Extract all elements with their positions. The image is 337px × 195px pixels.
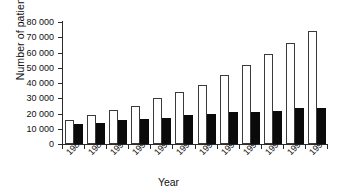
y-tick-label: 80 000 — [0, 18, 54, 27]
x-tick-mark — [195, 145, 196, 149]
bar-group — [198, 22, 216, 144]
x-tick-mark — [106, 145, 107, 149]
x-tick-mark — [84, 145, 85, 149]
bar-white — [109, 110, 118, 144]
x-axis-title: Year — [0, 176, 337, 188]
x-tick-mark — [305, 145, 306, 149]
bar-white — [175, 92, 184, 144]
bar-chart-figure: Number of patients 80 00070 00060 00050 … — [0, 0, 337, 195]
y-tick-label: 60 000 — [0, 49, 54, 58]
bar-group — [87, 22, 105, 144]
bar-white — [242, 65, 251, 144]
y-tick-label: 30 000 — [0, 94, 54, 103]
bar-white — [308, 31, 317, 144]
bar-white — [220, 75, 229, 144]
x-tick-mark — [239, 145, 240, 149]
y-tick-label: 50 000 — [0, 64, 54, 73]
y-tick-label: 0 — [0, 140, 54, 149]
bar-white — [286, 43, 295, 144]
x-tick-mark — [128, 145, 129, 149]
bar-group — [286, 22, 304, 144]
x-tick-mark — [261, 145, 262, 149]
bar-group — [109, 22, 127, 144]
bar-group — [131, 22, 149, 144]
bar-white — [153, 98, 162, 144]
x-tick-mark — [217, 145, 218, 149]
y-tick-label: 70 000 — [0, 33, 54, 42]
bar-group — [242, 22, 260, 144]
x-tick-mark — [327, 145, 328, 149]
bar-white — [131, 106, 140, 144]
plot-area — [62, 22, 327, 144]
bar-group — [264, 22, 282, 144]
x-tick-mark — [150, 145, 151, 149]
bar-group — [220, 22, 238, 144]
y-tick-label: 20 000 — [0, 110, 54, 119]
y-tick-label: 40 000 — [0, 79, 54, 88]
x-tick-mark — [283, 145, 284, 149]
bar-group — [153, 22, 171, 144]
x-tick-mark — [172, 145, 173, 149]
bar-group — [65, 22, 83, 144]
x-tick-mark — [62, 145, 63, 149]
bar-group — [175, 22, 193, 144]
y-tick-label: 10 000 — [0, 125, 54, 134]
bar-white — [198, 85, 207, 144]
bar-white — [264, 54, 273, 144]
bar-group — [308, 22, 326, 144]
